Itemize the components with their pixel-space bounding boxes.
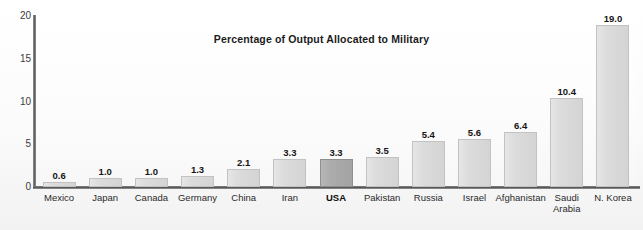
bar-value-label: 3.3: [313, 147, 359, 158]
bar-value-label: 10.4: [544, 86, 590, 97]
chart-title: Percentage of Output Allocated to Milita…: [0, 33, 643, 45]
bar-value-label: 0.6: [36, 170, 82, 181]
category-label-line: N. Korea: [582, 192, 643, 203]
category-label-n-korea: N. Korea: [582, 192, 643, 203]
bar-value-label: 1.3: [175, 164, 221, 175]
bar-chart: 05101520 Percentage of Output Allocated …: [0, 0, 643, 230]
bar-china[interactable]: [227, 169, 260, 187]
bar-usa[interactable]: [320, 159, 353, 187]
category-label-line: Arabia: [536, 203, 598, 214]
bar-value-label: 19.0: [590, 13, 636, 24]
bar-value-label: 6.4: [498, 120, 544, 131]
y-tick-label: 0: [5, 181, 31, 192]
bar-n-korea[interactable]: [596, 25, 629, 187]
bar-israel[interactable]: [458, 139, 491, 187]
bar-value-label: 2.1: [221, 157, 267, 168]
bar-value-label: 1.0: [128, 166, 174, 177]
bar-saudi-arabia[interactable]: [550, 98, 583, 187]
y-tick-label: 5: [5, 138, 31, 149]
y-tick-label: 20: [5, 10, 31, 21]
bar-value-label: 5.4: [405, 129, 451, 140]
y-tick-label: 15: [5, 53, 31, 64]
bar-mexico[interactable]: [43, 182, 76, 187]
bar-value-label: 5.6: [451, 127, 497, 138]
bar-germany[interactable]: [181, 176, 214, 187]
bar-afghanistan[interactable]: [504, 132, 537, 187]
bar-canada[interactable]: [135, 178, 168, 187]
bar-value-label: 1.0: [82, 166, 128, 177]
bar-value-label: 3.5: [359, 145, 405, 156]
bar-japan[interactable]: [89, 178, 122, 187]
chart-screenshot: Economic Growth 05101520 Percentage of O…: [0, 0, 643, 230]
bar-value-label: 3.3: [267, 147, 313, 158]
bar-pakistan[interactable]: [366, 157, 399, 187]
bar-iran[interactable]: [273, 159, 306, 187]
bar-russia[interactable]: [412, 141, 445, 187]
y-tick-label: 10: [5, 96, 31, 107]
